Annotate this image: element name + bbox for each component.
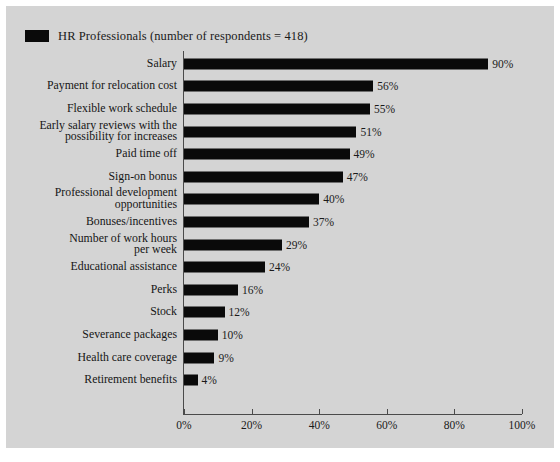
bar-row: Professional development opportunities40… xyxy=(6,188,554,211)
bar[interactable] xyxy=(184,194,319,205)
bar-row: Payment for relocation cost56% xyxy=(6,75,554,98)
category-label: Early salary reviews with the possibilit… xyxy=(0,120,177,143)
x-axis-tick-label: 40% xyxy=(309,419,330,431)
bar[interactable] xyxy=(184,126,356,137)
category-label: Educational assistance xyxy=(0,261,177,273)
bar-value-label: 90% xyxy=(492,58,513,70)
bar[interactable] xyxy=(184,216,309,227)
x-axis-tick xyxy=(387,409,388,414)
category-label: Payment for relocation cost xyxy=(0,81,177,93)
bar[interactable] xyxy=(184,149,350,160)
bar-value-label: 9% xyxy=(218,352,233,364)
category-label: Severance packages xyxy=(0,329,177,341)
x-axis-line xyxy=(183,414,522,415)
bar[interactable] xyxy=(184,307,225,318)
bar-value-label: 51% xyxy=(360,126,381,138)
bar-row: Severance packages10% xyxy=(6,324,554,347)
category-label: Stock xyxy=(0,307,177,319)
bar[interactable] xyxy=(184,375,198,386)
bar[interactable] xyxy=(184,103,370,114)
bar[interactable] xyxy=(184,81,373,92)
category-label: Health care coverage xyxy=(0,352,177,364)
category-label: Retirement benefits xyxy=(0,374,177,386)
bar[interactable] xyxy=(184,352,214,363)
x-axis-tick xyxy=(454,409,455,414)
category-label: Number of work hours per week xyxy=(0,233,177,256)
bar-row: Health care coverage9% xyxy=(6,346,554,369)
bar-row: Bonuses/incentives37% xyxy=(6,211,554,234)
bar-row: Salary90% xyxy=(6,53,554,76)
bar[interactable] xyxy=(184,239,282,250)
x-axis-tick-label: 60% xyxy=(376,419,397,431)
bar-value-label: 55% xyxy=(374,103,395,115)
category-label: Bonuses/incentives xyxy=(0,216,177,228)
bar-row: Educational assistance24% xyxy=(6,256,554,279)
category-label: Salary xyxy=(0,58,177,70)
bar[interactable] xyxy=(184,171,343,182)
x-axis-tick xyxy=(522,409,523,414)
bar-value-label: 16% xyxy=(242,284,263,296)
bar-value-label: 56% xyxy=(377,80,398,92)
category-label: Sign-on bonus xyxy=(0,171,177,183)
bar-value-label: 12% xyxy=(229,306,250,318)
bar-row: Sign-on bonus47% xyxy=(6,166,554,189)
category-label: Flexible work schedule xyxy=(0,103,177,115)
bar-row: Paid time off49% xyxy=(6,143,554,166)
category-label: Perks xyxy=(0,284,177,296)
x-axis-tick-label: 0% xyxy=(176,419,191,431)
plot-area: 0%20%40%60%80%100% Salary90%Payment for … xyxy=(6,6,554,448)
bar[interactable] xyxy=(184,58,488,69)
x-axis-tick-label: 20% xyxy=(241,419,262,431)
bar-row: Number of work hours per week29% xyxy=(6,233,554,256)
bar-value-label: 4% xyxy=(202,374,217,386)
category-label: Professional development opportunities xyxy=(0,188,177,211)
chart-panel: HR Professionals (number of respondents … xyxy=(6,6,554,448)
category-label: Paid time off xyxy=(0,148,177,160)
bar-value-label: 37% xyxy=(313,216,334,228)
bar-value-label: 40% xyxy=(323,193,344,205)
bar[interactable] xyxy=(184,284,238,295)
x-axis-tick xyxy=(319,409,320,414)
x-axis-tick xyxy=(184,409,185,414)
x-axis-tick xyxy=(252,409,253,414)
bar-row: Stock12% xyxy=(6,301,554,324)
bar-value-label: 10% xyxy=(222,329,243,341)
bar-value-label: 24% xyxy=(269,261,290,273)
bar-row: Flexible work schedule55% xyxy=(6,98,554,121)
x-axis-tick-label: 80% xyxy=(444,419,465,431)
bar-value-label: 49% xyxy=(354,148,375,160)
bar-row: Retirement benefits4% xyxy=(6,369,554,392)
bar-value-label: 47% xyxy=(347,171,368,183)
x-axis-tick-label: 100% xyxy=(509,419,536,431)
bar-row: Early salary reviews with the possibilit… xyxy=(6,120,554,143)
bar-value-label: 29% xyxy=(286,239,307,251)
bar[interactable] xyxy=(184,329,218,340)
bar-row: Perks16% xyxy=(6,279,554,302)
bar[interactable] xyxy=(184,262,265,273)
